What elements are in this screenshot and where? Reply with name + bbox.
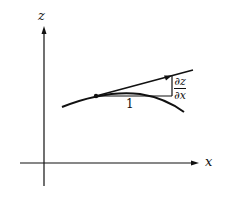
x-axis-arrow-icon <box>191 161 199 166</box>
tangency-point <box>94 94 98 98</box>
z-axis-label: z <box>38 9 45 22</box>
diagram-graphics <box>0 0 243 209</box>
slope-denominator: ∂x <box>174 89 186 102</box>
slope-numerator: ∂z <box>174 75 185 88</box>
slope-fraction: ∂z ∂x <box>174 76 186 101</box>
run-label: 1 <box>126 98 134 110</box>
tangent-arrow-icon <box>164 76 172 81</box>
z-axis-arrow-icon <box>42 26 47 34</box>
x-axis-label: x <box>205 155 212 168</box>
partial-derivative-diagram: z x 1 ∂z ∂x <box>0 0 243 209</box>
